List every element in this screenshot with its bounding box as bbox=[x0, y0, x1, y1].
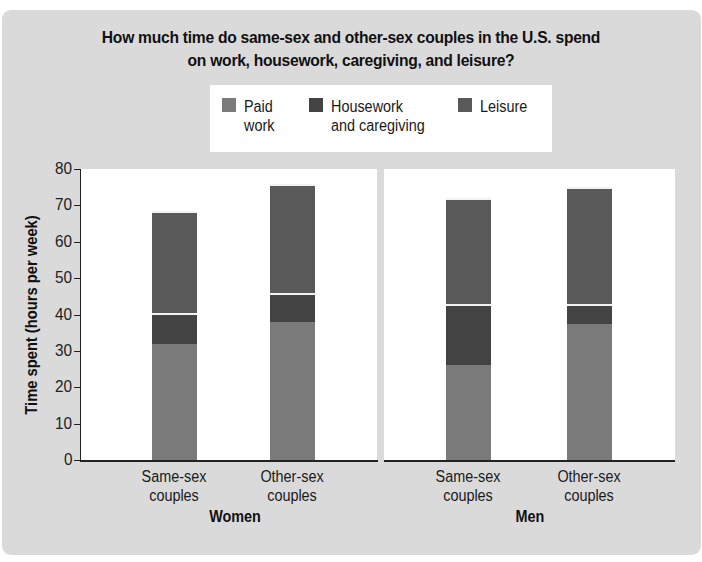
legend-label-leisure: Leisure bbox=[480, 97, 527, 116]
y-tick-label: 80 bbox=[55, 160, 72, 178]
category-label: Other-sexcouples bbox=[535, 467, 643, 505]
legend-swatch-leisure bbox=[458, 98, 472, 112]
panel-men bbox=[384, 169, 675, 460]
y-tick bbox=[74, 242, 80, 243]
bar-segment-housework-and-caregiving bbox=[446, 304, 491, 366]
category-label: Same-sexcouples bbox=[414, 467, 522, 505]
y-tick-label: 30 bbox=[55, 342, 72, 360]
group-label-women: Women bbox=[172, 508, 298, 526]
bar-segment-leisure bbox=[270, 184, 315, 293]
chart-title-line-2: on work, housework, caregiving, and leis… bbox=[28, 49, 674, 72]
legend-swatch-paid-work bbox=[222, 98, 236, 112]
bar-segment-leisure bbox=[567, 187, 612, 303]
panel-women bbox=[81, 169, 377, 460]
bar-segment-paid-work bbox=[446, 365, 491, 460]
legend-label-housework: Housework and caregiving bbox=[331, 97, 425, 135]
y-tick bbox=[74, 278, 80, 279]
y-tick-label: 0 bbox=[63, 451, 72, 469]
x-axis-men bbox=[384, 460, 675, 462]
y-tick bbox=[74, 315, 80, 316]
bar-segment-paid-work bbox=[567, 324, 612, 460]
y-tick bbox=[74, 169, 80, 170]
y-tick-label: 70 bbox=[55, 196, 72, 214]
y-tick bbox=[74, 351, 80, 352]
legend: Paid work Housework and caregiving Leisu… bbox=[210, 85, 552, 152]
y-tick bbox=[74, 387, 80, 388]
y-tick-label: 50 bbox=[55, 269, 72, 287]
bar-segment-leisure bbox=[152, 211, 197, 313]
category-label: Same-sexcouples bbox=[120, 467, 228, 505]
bar-segment-housework-and-caregiving bbox=[567, 304, 612, 324]
y-tick bbox=[74, 205, 80, 206]
bar-segment-paid-work bbox=[152, 344, 197, 460]
category-label: Other-sexcouples bbox=[238, 467, 346, 505]
group-label-men: Men bbox=[467, 508, 593, 526]
bar-segment-paid-work bbox=[270, 322, 315, 460]
y-tick-label: 20 bbox=[55, 378, 72, 396]
y-axis-label: Time spent (hours per week) bbox=[23, 215, 41, 414]
legend-swatch-housework bbox=[309, 98, 323, 112]
y-tick-label: 60 bbox=[55, 233, 72, 251]
bar-segment-housework-and-caregiving bbox=[270, 293, 315, 322]
y-axis bbox=[80, 169, 81, 461]
y-tick bbox=[74, 424, 80, 425]
x-axis-women bbox=[80, 460, 378, 462]
legend-label-paid-work: Paid work bbox=[244, 97, 274, 135]
chart-title: How much time do same-sex and other-sex … bbox=[28, 26, 674, 72]
y-tick-label: 10 bbox=[55, 415, 72, 433]
bar-segment-housework-and-caregiving bbox=[152, 313, 197, 344]
chart-title-line-1: How much time do same-sex and other-sex … bbox=[28, 26, 674, 49]
bar-segment-leisure bbox=[446, 198, 491, 303]
y-tick-label: 40 bbox=[55, 306, 72, 324]
y-tick bbox=[74, 460, 80, 461]
